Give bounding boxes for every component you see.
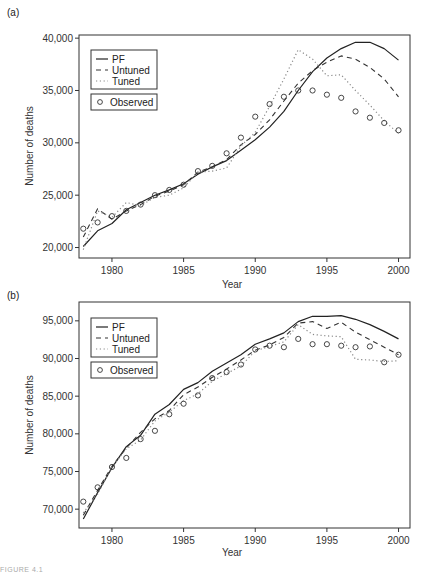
x-tick-label: 2000 xyxy=(387,535,410,546)
legend: PFUntunedTunedObserved xyxy=(91,50,157,110)
observed-point xyxy=(281,94,286,99)
y-tick-label: 35,000 xyxy=(42,85,73,96)
y-tick-label: 80,000 xyxy=(42,428,73,439)
observed-point xyxy=(324,92,329,97)
observed-point xyxy=(109,214,114,219)
legend-entry-tuned: Tuned xyxy=(112,76,140,87)
y-axis: 70,00075,00080,00085,00090,00095,000 xyxy=(42,315,79,514)
x-axis: 19801985199019952000 xyxy=(101,258,410,276)
observed-point xyxy=(353,345,358,350)
observed-point xyxy=(296,336,301,341)
observed-point xyxy=(339,343,344,348)
legend-entry-tuned: Tuned xyxy=(112,344,140,355)
x-tick-label: 1990 xyxy=(244,265,267,276)
y-tick-label: 75,000 xyxy=(42,466,73,477)
observed-point xyxy=(267,101,272,106)
legend-entry-pf: PF xyxy=(112,54,125,65)
y-tick-label: 90,000 xyxy=(42,353,73,364)
observed-point xyxy=(367,115,372,120)
y-tick-label: 85,000 xyxy=(42,391,73,402)
observed-point xyxy=(396,128,401,133)
observed-point xyxy=(310,342,315,347)
observed-point xyxy=(124,455,129,460)
x-tick-label: 1980 xyxy=(101,265,124,276)
observed-point xyxy=(81,499,86,504)
observed-point xyxy=(339,95,344,100)
observed-point xyxy=(167,412,172,417)
legend-entry-observed: Observed xyxy=(110,97,153,108)
y-tick-label: 70,000 xyxy=(42,504,73,515)
observed-point xyxy=(353,109,358,114)
observed-point xyxy=(224,151,229,156)
observed-point xyxy=(253,114,258,119)
x-axis-title: Year xyxy=(222,279,243,290)
x-tick-label: 1995 xyxy=(316,265,339,276)
legend-entry-untuned: Untuned xyxy=(112,333,150,344)
legend-entry-untuned: Untuned xyxy=(112,65,150,76)
observed-point xyxy=(195,393,200,398)
y-tick-label: 20,000 xyxy=(42,242,73,253)
y-axis-title: Number of deaths xyxy=(24,106,35,186)
y-tick-label: 25,000 xyxy=(42,190,73,201)
observed-point xyxy=(95,485,100,490)
chart-panel-b: 70,00075,00080,00085,00090,00095,0001980… xyxy=(24,302,410,558)
legend: PFUntunedTunedObserved xyxy=(91,318,157,378)
observed-point xyxy=(396,352,401,357)
chart-panel-a: 20,00025,00030,00035,00040,0001980198519… xyxy=(24,33,410,290)
legend-entry-pf: PF xyxy=(112,322,125,333)
observed-point xyxy=(281,345,286,350)
y-tick-label: 95,000 xyxy=(42,315,73,326)
observed-point xyxy=(95,220,100,225)
x-tick-label: 1980 xyxy=(101,535,124,546)
figure-canvas: 20,00025,00030,00035,00040,0001980198519… xyxy=(0,0,428,578)
x-tick-label: 1995 xyxy=(316,535,339,546)
x-axis-title: Year xyxy=(222,547,243,558)
observed-point xyxy=(181,401,186,406)
observed-point xyxy=(310,88,315,93)
x-axis: 19801985199019952000 xyxy=(101,528,410,546)
observed-point xyxy=(238,135,243,140)
y-tick-label: 30,000 xyxy=(42,137,73,148)
legend-entry-observed: Observed xyxy=(110,365,153,376)
observed-point xyxy=(367,344,372,349)
y-axis-title: Number of deaths xyxy=(24,375,35,455)
figure-caption: FIGURE 4.1 xyxy=(0,566,43,573)
observed-point xyxy=(224,369,229,374)
observed-point xyxy=(138,437,143,442)
x-tick-label: 1985 xyxy=(172,265,195,276)
x-tick-label: 1990 xyxy=(244,535,267,546)
observed-point xyxy=(152,428,157,433)
observed-point xyxy=(382,360,387,365)
y-axis: 20,00025,00030,00035,00040,000 xyxy=(42,33,79,253)
observed-point xyxy=(324,342,329,347)
x-tick-label: 1985 xyxy=(172,535,195,546)
observed-point xyxy=(81,226,86,231)
x-tick-label: 2000 xyxy=(387,265,410,276)
y-tick-label: 40,000 xyxy=(42,33,73,44)
